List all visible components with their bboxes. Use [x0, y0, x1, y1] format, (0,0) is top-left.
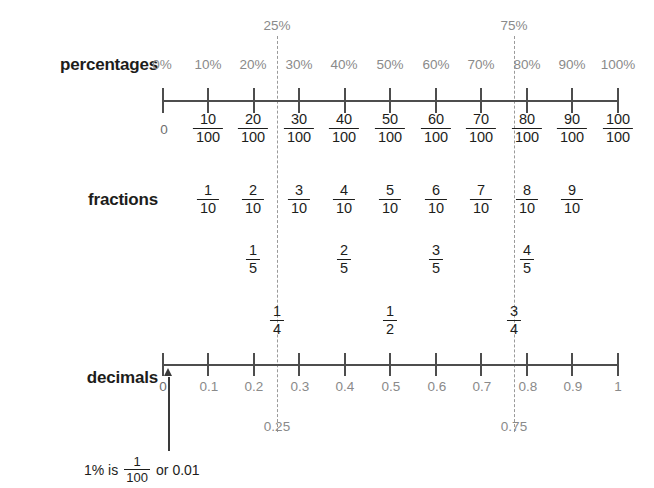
number-line-figure: 25% 75% 0.25 0.75 percentages 0% 10% 20%…: [0, 0, 654, 488]
hundredths-fraction: 70 100: [466, 112, 496, 145]
annotation-pointer-stem: [168, 377, 170, 451]
fraction-denominator: 100: [375, 128, 405, 145]
decimal-tick-label: 0.3: [291, 379, 310, 394]
fraction-denominator: 10: [197, 199, 219, 216]
fraction-numerator: 2: [337, 243, 351, 258]
decimal-tick-label: 0.7: [473, 379, 492, 394]
fraction-denominator: 100: [557, 128, 587, 145]
percentages-axis-tick: [617, 88, 619, 113]
decimal-tick-label: 0.5: [382, 379, 401, 394]
percent-tick-label: 40%: [330, 57, 357, 72]
percent-tick-label: 10%: [194, 57, 221, 72]
tenths-fraction: 3 10: [288, 183, 310, 216]
fraction-numerator: 90: [557, 112, 587, 127]
fraction-numerator: 3: [429, 243, 443, 258]
decimals-axis-tick: [253, 353, 255, 376]
guide-bottom-label-025: 0.25: [264, 419, 290, 434]
fraction-denominator: 10: [288, 199, 310, 216]
decimal-tick-label: 0.8: [519, 379, 538, 394]
decimals-axis-tick: [435, 353, 437, 376]
decimals-axis-tick: [571, 353, 573, 376]
fifths-fraction: 2 5: [337, 243, 351, 276]
annotation-fraction: 1 100: [124, 455, 150, 485]
fraction-numerator: 3: [507, 304, 521, 319]
fraction-numerator: 4: [333, 183, 355, 198]
fraction-denominator: 100: [512, 128, 542, 145]
fraction-denominator: 5: [337, 259, 351, 276]
decimals-axis-tick: [298, 353, 300, 376]
tenths-fraction: 2 10: [242, 183, 264, 216]
hundredths-fraction: 100 100: [603, 112, 633, 145]
percent-tick-label: 70%: [467, 57, 494, 72]
hundredths-fraction: 60 100: [421, 112, 451, 145]
percent-tick-label: 100%: [601, 57, 636, 72]
quarter-half-fraction: 1 4: [270, 304, 284, 337]
fraction-denominator: 100: [466, 128, 496, 145]
tenths-fraction: 5 10: [379, 183, 401, 216]
fraction-denominator: 10: [333, 199, 355, 216]
tenths-fraction: 4 10: [333, 183, 355, 216]
fifths-fraction: 4 5: [520, 243, 534, 276]
fraction-numerator: 4: [520, 243, 534, 258]
fraction-denominator: 2: [383, 320, 397, 337]
percent-tick-label: 30%: [285, 57, 312, 72]
decimal-tick-label: 1: [614, 379, 622, 394]
percent-tick-label: 80%: [513, 57, 540, 72]
fifths-fraction: 3 5: [429, 243, 443, 276]
hundredths-fraction: 30 100: [284, 112, 314, 145]
decimals-axis-tick: [617, 353, 619, 376]
guide-bottom-label-075: 0.75: [501, 419, 527, 434]
fraction-denominator: 10: [379, 199, 401, 216]
fraction-denominator: 100: [329, 128, 359, 145]
one-percent-annotation: 1% is 1 100 or 0.01: [84, 455, 200, 485]
percentages-axis-tick: [480, 88, 482, 113]
fraction-denominator: 10: [242, 199, 264, 216]
tenths-fraction: 7 10: [470, 183, 492, 216]
percentages-axis-tick: [571, 88, 573, 113]
fraction-numerator: 1: [246, 243, 260, 258]
fraction-numerator: 5: [379, 183, 401, 198]
fraction-denominator: 10: [425, 199, 447, 216]
fraction-denominator: 100: [603, 128, 633, 145]
percentages-axis-tick: [344, 88, 346, 113]
fraction-numerator: 80: [512, 112, 542, 127]
decimals-axis-tick: [480, 353, 482, 376]
fraction-denominator: 10: [516, 199, 538, 216]
fraction-denominator: 4: [270, 320, 284, 337]
fraction-numerator: 70: [466, 112, 496, 127]
fraction-numerator: 40: [329, 112, 359, 127]
guide-top-label-75: 75%: [500, 18, 527, 33]
tenths-fraction: 8 10: [516, 183, 538, 216]
quarter-half-fraction: 3 4: [507, 304, 521, 337]
hundredths-fraction: 90 100: [557, 112, 587, 145]
fraction-numerator: 20: [238, 112, 268, 127]
decimals-axis-tick: [344, 353, 346, 376]
fraction-denominator: 100: [284, 128, 314, 145]
fraction-denominator: 10: [470, 199, 492, 216]
percent-tick-label: 90%: [558, 57, 585, 72]
quarter-half-fraction: 1 2: [383, 304, 397, 337]
decimal-tick-label: 0.2: [245, 379, 264, 394]
dashed-guide-75: [514, 36, 515, 432]
fraction-numerator: 10: [193, 112, 223, 127]
fraction-denominator: 100: [238, 128, 268, 145]
decimal-tick-label: 0.4: [336, 379, 355, 394]
fraction-denominator: 4: [507, 320, 521, 337]
fraction-numerator: 7: [470, 183, 492, 198]
hundredths-zero-label: 0: [160, 122, 168, 137]
percent-tick-label: 60%: [422, 57, 449, 72]
fraction-denominator: 10: [561, 199, 583, 216]
fraction-denominator: 100: [421, 128, 451, 145]
decimals-axis-tick: [389, 353, 391, 376]
percentages-axis-tick: [435, 88, 437, 113]
annotation-conjunction: or: [156, 462, 168, 478]
fraction-numerator: 3: [288, 183, 310, 198]
fraction-numerator: 1: [124, 455, 150, 468]
hundredths-fraction: 50 100: [375, 112, 405, 145]
row-label-fractions: fractions: [28, 190, 158, 210]
percentages-axis-tick: [389, 88, 391, 113]
decimal-tick-label: 0.1: [200, 379, 219, 394]
fraction-numerator: 1: [383, 304, 397, 319]
hundredths-fraction: 20 100: [238, 112, 268, 145]
annotation-prefix: 1% is: [84, 462, 118, 478]
